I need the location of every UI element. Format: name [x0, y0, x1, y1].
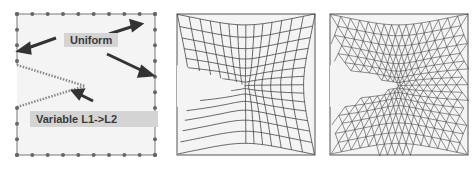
variable-label: Variable L1->L2: [30, 111, 158, 127]
uniform-label: Uniform: [64, 33, 118, 47]
quad-mesh-diagram: [177, 14, 315, 155]
panel-tri-mesh: [330, 14, 468, 155]
panel-quad-mesh: [177, 14, 315, 155]
panel-seeding: Uniform Variable L1->L2: [17, 14, 155, 155]
tri-mesh-diagram: [330, 14, 468, 155]
